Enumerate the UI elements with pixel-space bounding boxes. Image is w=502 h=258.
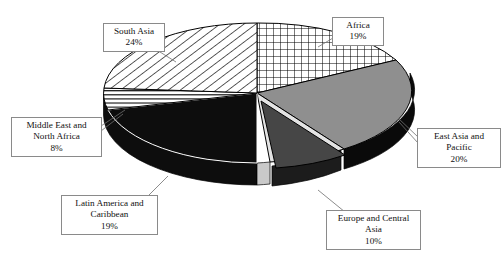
callout-east-asia-percent: 20% [422, 154, 496, 165]
callout-africa[interactable]: Africa 19% [332, 17, 384, 46]
pie-chart-figure: Africa 19% East Asia and Pacific 20% Eur… [0, 0, 502, 258]
callout-africa-percent: 19% [337, 31, 379, 42]
leader-line-latin-america [148, 176, 168, 196]
callout-latin-america-label-line2: Caribbean [66, 209, 153, 220]
leader-line-europe [318, 190, 345, 212]
callout-latin-america-and-caribbean[interactable]: Latin America and Caribbean 19% [61, 195, 158, 235]
callout-south-asia-percent: 24% [108, 37, 160, 48]
callout-middle-east-and-north-africa[interactable]: Middle East and North Africa 8% [11, 117, 102, 157]
callout-south-asia-label: South Asia [108, 26, 160, 37]
callout-east-asia-label-line2: Pacific [422, 142, 496, 153]
callout-europe-label-line2: Asia [331, 224, 416, 235]
callout-latin-america-label-line1: Latin America and [66, 198, 153, 209]
callout-europe-label-line1: Europe and Central [331, 213, 416, 224]
callout-middle-east-label-line2: North Africa [16, 131, 97, 142]
callout-middle-east-label-line1: Middle East and [16, 120, 97, 131]
side-wall-center-light [257, 162, 270, 185]
callout-south-asia[interactable]: South Asia 24% [103, 23, 165, 52]
callout-europe-percent: 10% [331, 236, 416, 247]
callout-east-asia-and-pacific[interactable]: East Asia and Pacific 20% [417, 128, 501, 168]
callout-east-asia-label-line1: East Asia and [422, 131, 496, 142]
callout-europe-and-central-asia[interactable]: Europe and Central Asia 10% [326, 210, 421, 250]
callout-africa-label: Africa [337, 20, 379, 31]
callout-middle-east-percent: 8% [16, 143, 97, 154]
callout-latin-america-percent: 19% [66, 221, 153, 232]
